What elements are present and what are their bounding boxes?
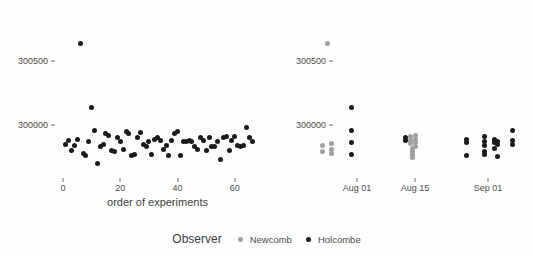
x-axis-tick-mark bbox=[234, 178, 235, 182]
data-point bbox=[195, 147, 200, 152]
data-point bbox=[101, 142, 106, 147]
data-point bbox=[89, 105, 94, 110]
data-point bbox=[241, 143, 246, 148]
x-axis-tick-label: Sep 01 bbox=[474, 183, 503, 193]
x-axis-tick-label: 60 bbox=[230, 183, 240, 193]
data-point bbox=[224, 134, 229, 139]
data-point bbox=[244, 125, 249, 130]
data-point bbox=[212, 144, 217, 149]
data-point bbox=[146, 139, 151, 144]
data-point bbox=[250, 139, 255, 144]
data-point bbox=[83, 153, 88, 158]
data-point bbox=[121, 147, 126, 152]
data-point bbox=[482, 143, 487, 148]
y-axis-tick-mark bbox=[51, 61, 55, 62]
y-axis-tick-mark bbox=[329, 61, 333, 62]
y-axis-tick-label: 300500 bbox=[278, 56, 326, 66]
legend: Observer Newcomb Holcombe bbox=[0, 222, 533, 256]
data-point bbox=[86, 139, 91, 144]
panel-by-date: 300500300000Aug 01Aug 15Sep 01 bbox=[280, 0, 533, 215]
data-point bbox=[492, 146, 497, 151]
data-point bbox=[464, 140, 469, 145]
x-axis-tick-mark bbox=[357, 178, 358, 182]
y-axis-tick-mark bbox=[329, 125, 333, 126]
legend-key-holcombe-icon bbox=[306, 237, 311, 242]
legend-label-holcombe: Holcombe bbox=[318, 234, 361, 245]
data-point bbox=[112, 149, 117, 154]
data-point bbox=[410, 155, 415, 160]
data-point bbox=[201, 138, 206, 143]
y-axis-tick-label: 300000 bbox=[0, 120, 48, 130]
y-axis-tick-label: 300500 bbox=[0, 56, 48, 66]
data-point bbox=[495, 154, 500, 159]
data-point bbox=[349, 152, 354, 157]
data-point bbox=[126, 131, 131, 136]
data-point bbox=[132, 152, 137, 157]
data-point bbox=[349, 105, 354, 110]
data-point bbox=[118, 139, 123, 144]
x-axis-tick-label: Aug 15 bbox=[401, 183, 430, 193]
data-point bbox=[204, 148, 209, 153]
y-axis-tick-mark bbox=[51, 125, 55, 126]
data-point bbox=[69, 148, 74, 153]
legend-key-newcomb-icon bbox=[238, 237, 243, 242]
x-axis-tick-mark bbox=[177, 178, 178, 182]
data-point bbox=[320, 149, 325, 154]
data-point bbox=[92, 128, 97, 133]
data-point bbox=[403, 138, 408, 143]
data-point bbox=[215, 139, 220, 144]
x-axis-tick-label: 40 bbox=[173, 183, 183, 193]
data-point bbox=[138, 130, 143, 135]
data-point bbox=[227, 148, 232, 153]
data-point bbox=[510, 142, 515, 147]
data-point bbox=[95, 161, 100, 166]
data-point bbox=[349, 128, 354, 133]
data-point bbox=[144, 144, 149, 149]
legend-entry-holcombe[interactable]: Holcombe bbox=[306, 234, 361, 245]
x-axis-tick-mark bbox=[63, 178, 64, 182]
data-point bbox=[175, 129, 180, 134]
legend-label-newcomb: Newcomb bbox=[250, 234, 292, 245]
data-point bbox=[75, 137, 80, 142]
data-point bbox=[164, 143, 169, 148]
data-point bbox=[149, 152, 154, 157]
x-axis-tick-label: Aug 01 bbox=[343, 183, 372, 193]
data-point bbox=[510, 128, 515, 133]
x-axis-tick-mark bbox=[120, 178, 121, 182]
legend-title: Observer bbox=[172, 232, 221, 246]
x-axis-tick-mark bbox=[415, 178, 416, 182]
legend-entry-newcomb[interactable]: Newcomb bbox=[238, 234, 292, 245]
data-point bbox=[329, 141, 334, 146]
data-point bbox=[207, 135, 212, 140]
x-axis-title: order of experiments bbox=[107, 196, 208, 208]
x-axis-tick-label: 20 bbox=[115, 183, 125, 193]
panel-order-of-experiments: 3005003000000204060order of experiments bbox=[0, 0, 280, 215]
data-point bbox=[325, 41, 330, 46]
data-point bbox=[464, 153, 469, 158]
data-point bbox=[158, 138, 163, 143]
x-axis-tick-mark bbox=[488, 178, 489, 182]
data-point bbox=[78, 41, 83, 46]
data-point bbox=[329, 151, 334, 156]
data-point bbox=[166, 153, 171, 158]
data-point bbox=[320, 143, 325, 148]
data-point bbox=[66, 138, 71, 143]
y-axis-tick-label: 300000 bbox=[278, 120, 326, 130]
data-point bbox=[218, 157, 223, 162]
data-point bbox=[232, 134, 237, 139]
data-point bbox=[106, 133, 111, 138]
data-point bbox=[135, 135, 140, 140]
x-axis-tick-label: 0 bbox=[60, 183, 65, 193]
data-point bbox=[72, 143, 77, 148]
data-point bbox=[169, 138, 174, 143]
data-point bbox=[482, 152, 487, 157]
data-point bbox=[349, 140, 354, 145]
data-point bbox=[178, 153, 183, 158]
